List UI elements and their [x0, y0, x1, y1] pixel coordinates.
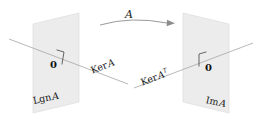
- map-arrow-curve: [100, 20, 167, 25]
- linear-map-subspaces-figure: A Ker A Ker AT 0 0 Lgn A Im A: [0, 0, 261, 123]
- map-label: A: [125, 9, 133, 20]
- left-origin-label: 0: [50, 60, 57, 70]
- right-origin-label: 0: [205, 63, 212, 73]
- map-arrow-head: [167, 20, 175, 26]
